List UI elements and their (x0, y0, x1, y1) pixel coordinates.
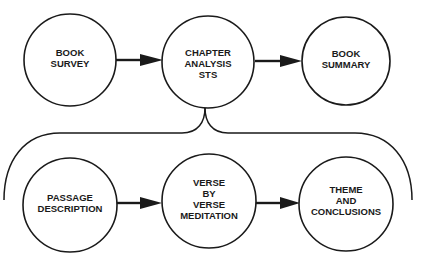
node-label: CHAPTER (185, 47, 231, 58)
node-book-survey: BOOK SURVEY (24, 14, 116, 106)
node-chapter-analysis: CHAPTER ANALYSIS STS (162, 16, 254, 108)
node-label: MEDITATION (180, 210, 238, 221)
node-verse-by-verse: VERSE BY VERSE MEDITATION (162, 154, 256, 248)
node-book-summary: BOOK SUMMARY (302, 17, 390, 105)
node-label: VERSE (193, 199, 225, 210)
node-label: SURVEY (51, 58, 91, 69)
node-theme-conclusions: THEME AND CONCLUSIONS (299, 157, 393, 251)
arrow-analysis-to-summary (255, 55, 302, 67)
node-label: CONCLUSIONS (311, 206, 381, 217)
node-label: STS (199, 69, 217, 80)
node-passage-description: PASSAGE DESCRIPTION (23, 158, 117, 252)
node-label: BY (202, 188, 216, 199)
arrow-verse-to-theme (256, 197, 300, 209)
node-label: PASSAGE (47, 192, 93, 203)
node-label: AND (336, 195, 357, 206)
node-label: DESCRIPTION (38, 203, 103, 214)
arrow-survey-to-analysis (116, 54, 163, 66)
node-label: ANALYSIS (184, 58, 231, 69)
node-label: SUMMARY (322, 59, 371, 70)
node-label: THEME (329, 184, 362, 195)
arrow-passage-to-verse (117, 197, 162, 209)
node-label: BOOK (332, 48, 361, 59)
node-label: BOOK (56, 47, 85, 58)
node-label: VERSE (193, 177, 225, 188)
flow-diagram: BOOK SURVEY CHAPTER ANALYSIS STS BOOK SU… (0, 0, 423, 255)
